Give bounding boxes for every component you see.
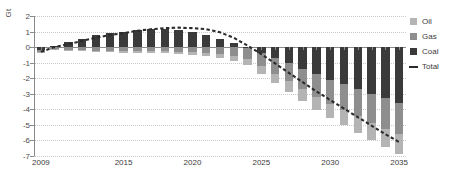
bar-segment-gas [312,74,321,97]
x-axis-tick [68,47,69,50]
y-axis-tick-label: -5 [23,120,30,129]
bar-segment-gas [257,53,266,66]
x-axis-tick [151,47,152,50]
legend-item-oil[interactable]: Oil [410,14,457,29]
legend-item-coal[interactable]: Coal [410,44,457,59]
chart-legend: OilGasCoalTotal [410,14,457,74]
legend-label: Total [422,63,439,71]
bar-segment-coal [188,32,197,48]
bar-segment-oil [271,74,280,83]
y-axis-unit-label: Gt [4,0,18,28]
x-axis-tick [261,47,262,50]
bar-segment-gas [354,89,363,116]
x-axis-tick [344,47,345,50]
legend-swatch-icon [410,18,417,25]
y-axis-tick-label: -6 [23,136,30,145]
x-axis-tick [316,47,317,50]
x-axis-tick-label: 2009 [32,158,50,167]
bar-segment-coal [381,47,390,98]
x-axis-tick-label: 2035 [390,158,408,167]
x-axis-tick-label: 2030 [321,158,339,167]
bar-segment-oil [285,81,294,91]
bar-segment-coal [161,29,170,47]
x-axis-tick [399,47,400,50]
y-axis-tick [30,94,34,95]
bar-segment-coal [298,47,307,69]
bar-segment-oil [92,51,101,52]
x-axis-tick [96,47,97,50]
y-axis-tick [30,156,34,157]
bar-segment-coal [367,47,376,94]
y-axis-tick-label: -7 [23,152,30,161]
bar-segment-oil [161,51,170,53]
x-axis-tick [289,47,290,50]
legend-dashed-line-icon [410,63,417,70]
x-axis-tick [206,47,207,50]
y-axis-tick-label: 2 [26,12,30,21]
x-axis-tick [303,47,304,50]
bar-segment-oil [298,89,307,101]
bar-segment-oil [230,56,239,61]
x-axis-tick [234,47,235,50]
x-axis-tick [358,47,359,50]
x-axis-tick [55,47,56,50]
bar-segment-oil [243,59,252,66]
gridline [34,109,406,110]
bar-segment-coal [174,30,183,47]
stacked-bar-chart: Gt 210-1-2-3-4-5-6-7 2009201520202025203… [0,0,457,178]
bar-segment-oil [119,51,128,53]
y-axis-tick [30,47,34,48]
x-axis-tick [248,47,249,50]
y-axis-tick-label: -4 [23,105,30,114]
bar-segment-oil [147,51,156,53]
y-axis-tick [30,32,34,33]
bar-segment-oil [340,110,349,125]
gridline [34,140,406,141]
bar-segment-coal [395,47,404,103]
bar-segment-oil [354,116,363,132]
legend-label: Gas [422,33,437,41]
bar-segment-coal [202,35,211,47]
bar-segment-coal [354,47,363,89]
bar-segment-coal [147,29,156,47]
y-axis-tick [30,16,34,17]
bar-segment-coal [92,35,101,47]
x-axis-tick [179,47,180,50]
bar-segment-oil [78,50,87,51]
bar-segment-oil [216,54,225,58]
bar-segment-oil [174,52,183,54]
bar-segment-oil [312,97,321,110]
legend-item-total[interactable]: Total [410,59,457,74]
x-axis-tick-label: 2015 [115,158,133,167]
gridline [34,16,406,17]
bar-segment-gas [271,58,280,74]
bar-segment-oil [395,134,404,153]
gridline [34,156,406,157]
legend-label: Coal [422,48,438,56]
x-axis-tick [110,47,111,50]
bar-segment-oil [326,104,335,118]
x-axis-tick [220,47,221,50]
legend-swatch-icon [410,48,417,55]
legend-item-gas[interactable]: Gas [410,29,457,44]
y-axis-tick [30,109,34,110]
bar-segment-gas [285,63,294,81]
bar-segment-gas [298,69,307,89]
y-axis-line [34,16,35,156]
x-axis-tick [372,47,373,50]
bar-segment-coal [106,33,115,47]
bar-segment-coal [216,39,225,48]
x-axis-tick [385,47,386,50]
bar-segment-oil [37,52,46,53]
gridline [34,32,406,33]
x-axis-tick [82,47,83,50]
bar-segment-oil [106,51,115,52]
legend-swatch-icon [410,33,417,40]
x-axis-tick-label: 2020 [184,158,202,167]
y-axis-tick-label: -1 [23,58,30,67]
bar-segment-oil [381,129,390,147]
x-axis-tick [41,47,42,50]
bar-segment-oil [257,66,266,74]
y-axis-tick [30,78,34,79]
x-axis-tick-label: 2025 [252,158,270,167]
